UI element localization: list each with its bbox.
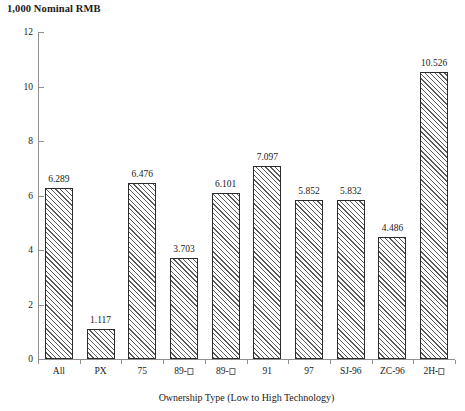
x-category-label: 89-	[216, 366, 235, 376]
bar-value-label: 1.117	[90, 315, 111, 325]
bar-chart: 1,000 Nominal RMB 024681012 6.2891.1176.…	[0, 0, 465, 411]
x-category-label: ZC-96	[380, 366, 405, 376]
missing-glyph-icon	[439, 368, 445, 375]
x-tick	[330, 360, 331, 364]
bar-value-label: 7.097	[257, 152, 278, 162]
y-tick	[39, 305, 44, 306]
bar	[45, 188, 73, 359]
x-category-label: 89-	[174, 366, 193, 376]
missing-glyph-icon	[229, 368, 235, 375]
x-tick	[455, 360, 456, 364]
y-tick	[39, 359, 44, 360]
bar	[87, 329, 115, 359]
y-tick	[39, 87, 44, 88]
missing-glyph-icon	[188, 368, 194, 375]
y-tick-label: 0	[28, 354, 33, 364]
bar	[170, 258, 198, 359]
x-tick	[413, 360, 414, 364]
bar	[337, 200, 365, 359]
x-tick	[80, 360, 81, 364]
bar	[128, 183, 156, 359]
chart-x-axis-title: Ownership Type (Low to High Technology)	[38, 392, 455, 403]
y-tick-label: 8	[28, 136, 33, 146]
x-category-label: 91	[263, 366, 273, 376]
y-tick	[39, 196, 44, 197]
y-tick-label: 2	[28, 300, 33, 310]
bar	[253, 166, 281, 359]
y-tick	[39, 250, 44, 251]
bar-value-label: 4.486	[382, 223, 403, 233]
bar-value-label: 3.703	[173, 244, 194, 254]
bar-value-label: 6.476	[132, 169, 153, 179]
y-tick-label: 6	[28, 191, 33, 201]
bar	[420, 72, 448, 359]
bar-value-label: 5.852	[298, 186, 319, 196]
x-tick	[247, 360, 248, 364]
x-category-label: 2H-	[424, 366, 445, 376]
x-tick	[38, 360, 39, 364]
y-tick	[39, 32, 44, 33]
x-tick	[205, 360, 206, 364]
bar-value-label: 5.832	[340, 186, 361, 196]
y-tick-label: 4	[28, 245, 33, 255]
x-tick	[372, 360, 373, 364]
x-category-label: All	[53, 366, 65, 376]
x-category-label: SJ-96	[340, 366, 362, 376]
bar-value-label: 6.289	[48, 174, 69, 184]
x-category-label: 75	[138, 366, 148, 376]
bar	[378, 237, 406, 359]
y-tick	[39, 141, 44, 142]
chart-y-axis-title: 1,000 Nominal RMB	[7, 3, 101, 14]
y-tick-label: 12	[24, 27, 34, 37]
bar-value-label: 6.101	[215, 179, 236, 189]
bar-value-label: 10.526	[421, 58, 447, 68]
plot-area: 024681012 6.2891.1176.4763.7036.1017.097…	[38, 32, 455, 359]
x-tick	[163, 360, 164, 364]
x-tick	[288, 360, 289, 364]
x-category-label: PX	[94, 366, 106, 376]
bar	[295, 200, 323, 359]
bar	[212, 193, 240, 359]
y-tick-label: 10	[24, 82, 34, 92]
x-tick	[121, 360, 122, 364]
x-category-label: 97	[304, 366, 314, 376]
